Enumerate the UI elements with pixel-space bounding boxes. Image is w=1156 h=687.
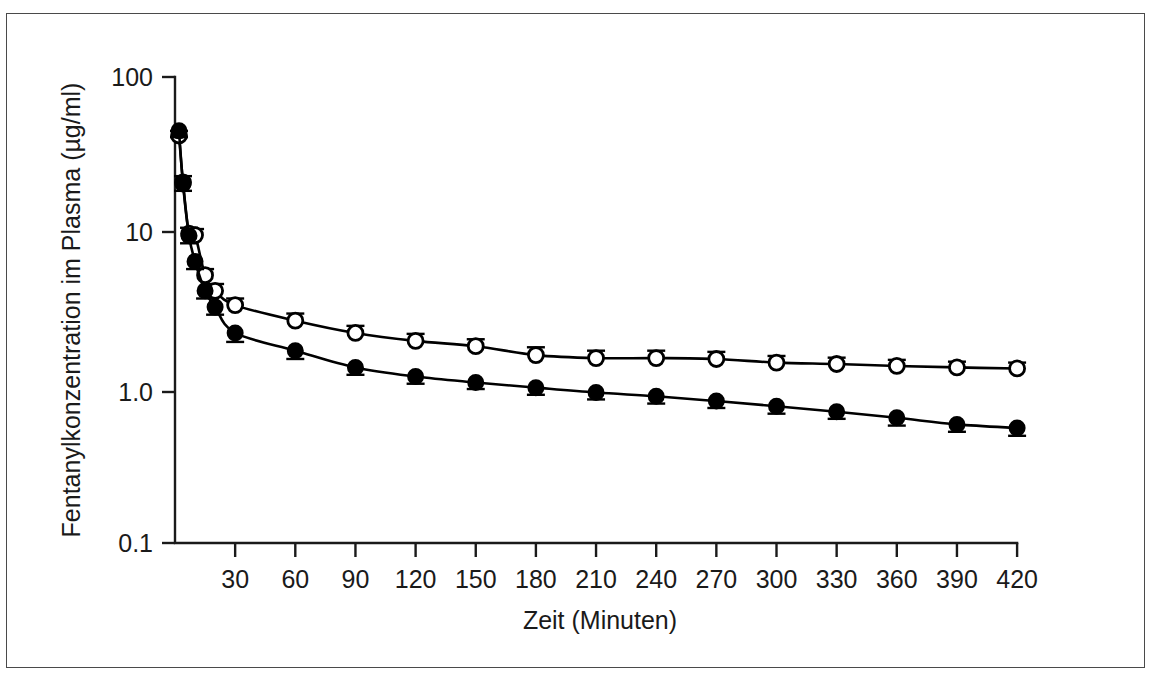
plot-area: 100101.00.1 3060901201501802102402703003… (0, 0, 1156, 687)
data-point-open-circle (829, 357, 844, 372)
data-point-open-circle (889, 358, 904, 373)
x-tick-label: 270 (695, 565, 737, 593)
x-tick-label: 210 (575, 565, 617, 593)
data-point-open-circle (949, 360, 964, 375)
data-point-open-circle (288, 313, 303, 328)
data-point-open-circle (589, 351, 604, 366)
x-tick-label: 60 (281, 565, 309, 593)
data-point-open-circle (649, 351, 664, 366)
data-point-filled-circle (528, 380, 543, 395)
data-point-open-circle (408, 333, 423, 348)
y-tick-label: 1.0 (118, 378, 153, 406)
x-tick-label: 330 (816, 565, 858, 593)
x-tick-label: 300 (756, 565, 798, 593)
y-axis-tick-labels: 100101.00.1 (111, 63, 153, 557)
data-point-filled-circle (176, 176, 191, 191)
data-point-open-circle (769, 355, 784, 370)
y-tick-label: 0.1 (118, 529, 153, 557)
data-point-open-circle (468, 339, 483, 354)
data-series-group (170, 123, 1026, 435)
data-point-open-circle (709, 351, 724, 366)
x-tick-label: 240 (635, 565, 677, 593)
data-point-filled-circle (468, 375, 483, 390)
data-point-open-circle (528, 348, 543, 363)
data-point-filled-circle (949, 417, 964, 432)
x-tick-label: 360 (876, 565, 918, 593)
y-tick-label: 10 (125, 218, 153, 246)
x-tick-label: 180 (515, 565, 557, 593)
figure-root: 100101.00.1 3060901201501802102402703003… (0, 0, 1156, 687)
data-point-filled-circle (589, 385, 604, 400)
data-point-filled-circle (408, 369, 423, 384)
series-filled (170, 123, 1026, 435)
data-point-filled-circle (288, 343, 303, 358)
x-tick-label: 390 (936, 565, 978, 593)
data-point-filled-circle (649, 389, 664, 404)
data-point-filled-circle (1010, 420, 1025, 435)
axis-lines (175, 77, 1017, 543)
x-tick-label: 150 (455, 565, 497, 593)
data-point-filled-circle (709, 394, 724, 409)
x-axis-ticks (235, 543, 1017, 557)
y-axis-title: Fentanylkonzentration im Plasma (µg/ml) (57, 83, 85, 538)
series-curve (179, 131, 1017, 428)
data-point-open-circle (348, 325, 363, 340)
x-tick-label: 90 (342, 565, 370, 593)
x-tick-label: 30 (221, 565, 249, 593)
series-curve (179, 136, 1017, 369)
data-point-filled-circle (198, 283, 213, 298)
axes-group: 100101.00.1 3060901201501802102402703003… (111, 63, 1038, 593)
data-point-filled-circle (228, 325, 243, 340)
data-point-open-circle (228, 298, 243, 313)
y-axis-ticks (162, 77, 175, 543)
data-point-filled-circle (829, 404, 844, 419)
series-open (170, 128, 1026, 376)
data-point-filled-circle (348, 360, 363, 375)
data-point-open-circle (1010, 361, 1025, 376)
x-axis-tick-labels: 306090120150180210240270300330360390420 (221, 565, 1038, 593)
x-axis-title: Zeit (Minuten) (523, 606, 677, 634)
data-point-filled-circle (769, 399, 784, 414)
y-tick-label: 100 (111, 63, 153, 91)
x-tick-label: 120 (395, 565, 437, 593)
data-point-filled-circle (188, 254, 203, 269)
data-point-filled-circle (889, 410, 904, 425)
data-point-filled-circle (208, 300, 223, 315)
data-point-filled-circle (182, 228, 197, 243)
x-tick-label: 420 (996, 565, 1038, 593)
data-point-filled-circle (172, 123, 187, 138)
